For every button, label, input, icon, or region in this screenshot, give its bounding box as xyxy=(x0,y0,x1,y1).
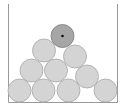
ball xyxy=(45,59,68,82)
ball xyxy=(20,59,43,82)
balls-group xyxy=(8,25,117,103)
ball xyxy=(8,79,31,102)
ball xyxy=(33,39,56,62)
ball xyxy=(64,45,87,68)
ball xyxy=(57,79,80,102)
ball xyxy=(32,79,55,102)
ball xyxy=(76,65,99,88)
center-dot-icon xyxy=(61,35,64,38)
balls-diagram xyxy=(0,0,124,107)
ball xyxy=(94,79,117,102)
